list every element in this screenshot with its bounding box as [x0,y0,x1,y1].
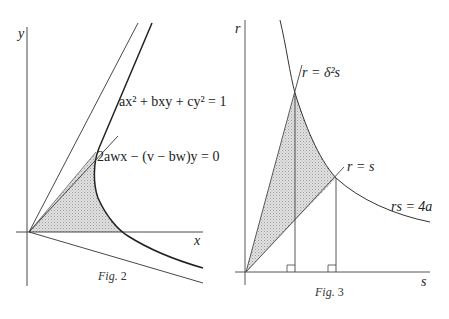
fig3-line-r-eq-s-label: r = s [347,160,374,174]
fig3-shaded-region [246,93,336,272]
figures-canvas [0,0,449,319]
fig3-diagram [235,20,430,285]
figure-page: y x ax² + bxy + cy² = 1 2awx − (v − bw)y… [0,0,449,319]
fig2-y-axis-label: y [18,27,24,41]
fig2-x-axis-label: x [194,234,200,248]
fig3-caption: Fig. 3 [315,285,344,300]
fig2-caption-prefix: Fig. [98,269,118,283]
fig2-shaded-region [29,152,123,232]
fig2-conic-equation: ax² + bxy + cy² = 1 [119,95,227,109]
fig2-caption-number: 2 [121,269,127,283]
fig3-caption-prefix: Fig. [315,285,335,299]
fig3-s-axis-label: s [421,275,426,289]
fig3-right-angle-marker-1 [287,265,295,272]
fig3-right-angle-marker-2 [328,265,336,272]
fig3-caption-number: 3 [338,285,344,299]
fig3-hyperbola-label: rs = 4a [391,200,432,214]
fig2-chord-equation: 2awx − (v − bw)y = 0 [97,150,219,164]
fig3-line-delta-label: r = δ²s [302,66,340,80]
fig2-caption: Fig. 2 [98,269,127,284]
fig3-r-axis-label: r [235,22,240,36]
